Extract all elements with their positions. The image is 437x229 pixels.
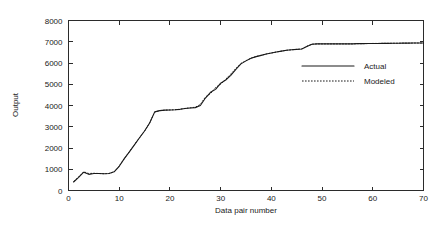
x-tick-label: 0 [66, 194, 71, 203]
x-tick-label: 60 [368, 194, 377, 203]
y-tick-label: 2000 [45, 144, 63, 153]
x-tick-label: 70 [419, 194, 428, 203]
x-tick-label: 40 [267, 194, 276, 203]
plot-frame [69, 21, 424, 191]
y-tick-label: 4000 [45, 102, 63, 111]
chart-figure: 0102030405060700100020003000400050006000… [0, 0, 437, 229]
x-axis-label: Data pair number [215, 206, 277, 215]
x-tick-label: 50 [318, 194, 327, 203]
x-tick-label: 30 [216, 194, 225, 203]
y-axis-label: Output [11, 92, 20, 117]
y-tick-label: 1000 [45, 165, 63, 174]
legend-label-modeled: Modeled [364, 77, 395, 86]
axis-tick-labels: 0102030405060700100020003000400050006000… [45, 17, 429, 203]
y-tick-label: 6000 [45, 59, 63, 68]
x-tick-label: 20 [165, 194, 174, 203]
y-tick-label: 3000 [45, 123, 63, 132]
y-tick-label: 8000 [45, 17, 63, 26]
y-tick-label: 0 [58, 187, 63, 196]
chart-legend: ActualModeled [302, 62, 395, 86]
legend-label-actual: Actual [364, 62, 386, 71]
x-tick-label: 10 [115, 194, 124, 203]
axis-ticks [69, 21, 424, 191]
line-chart: 0102030405060700100020003000400050006000… [0, 0, 437, 229]
y-tick-label: 7000 [45, 38, 63, 47]
y-tick-label: 5000 [45, 80, 63, 89]
